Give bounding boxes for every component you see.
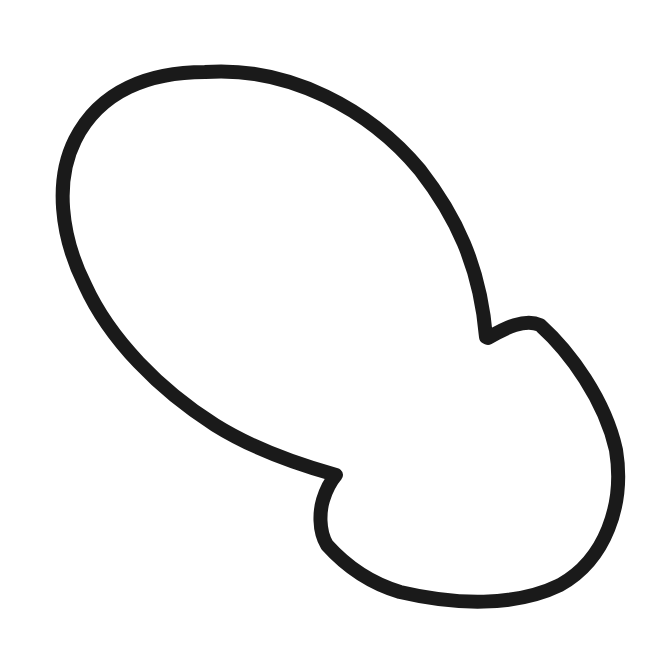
shoe-outline <box>63 71 618 601</box>
shoe-print-icon <box>0 0 669 651</box>
drawing-canvas <box>0 0 669 651</box>
